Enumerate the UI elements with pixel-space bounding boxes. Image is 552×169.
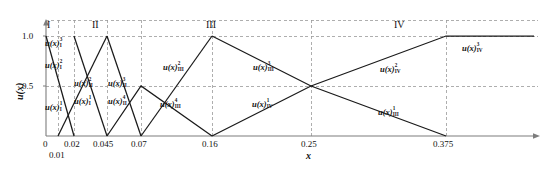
curve-label-fn: u(x) <box>45 60 60 70</box>
y-tick-05: 0.5 <box>22 81 33 91</box>
curve-label-sub: III <box>178 67 184 72</box>
x-axis-arrow <box>533 133 540 139</box>
curve-label-u-III-3: u(x)3III <box>253 57 275 73</box>
curve-u-III-2 <box>141 36 212 136</box>
curve-label-sub: IV <box>267 104 273 109</box>
curve-label-fn: u(x) <box>45 38 60 48</box>
curve-label-sub: I <box>60 107 62 112</box>
x-tick-016: 0.16 <box>202 139 218 149</box>
x-tick-0: 0 <box>43 139 48 149</box>
x-tick-001: 0.01 <box>49 150 65 160</box>
curve-label-sub: II <box>123 101 127 106</box>
curve-label-u-II-2: u(x)2II <box>74 73 96 89</box>
x-tick-002: 0.02 <box>64 139 80 149</box>
curve-label-fn: u(x) <box>252 99 267 109</box>
y-tick-1: 1.0 <box>22 31 33 41</box>
curve-label-fn: u(x) <box>45 102 60 112</box>
curve-label-u-I-3: u(x)3I <box>45 33 67 49</box>
curve-label-sub: IV <box>395 69 401 74</box>
curve-label-fn: u(x) <box>253 62 268 72</box>
curve-label-sub: IV <box>477 48 483 53</box>
curve-label-u-IV-1: u(x)1IV <box>252 94 274 110</box>
curve-label-u-IV-2: u(x)2IV <box>380 59 402 75</box>
x-tick-0375: 0.375 <box>433 139 453 149</box>
region-label-II: II <box>92 19 99 30</box>
curve-label-sub: III <box>175 104 181 109</box>
curve-label-fn: u(x) <box>108 78 123 88</box>
x-tick-007: 0.07 <box>131 139 147 149</box>
curve-label-sub: I <box>60 65 62 70</box>
curve-label-u-III-1: u(x)1III <box>378 102 400 118</box>
curve-label-u-II-3: u(x)3II <box>108 73 130 89</box>
curve-label-fn: u(x) <box>160 99 175 109</box>
curve-label-fn: u(x) <box>74 78 89 88</box>
fuzzy-membership-figure: u(x) x 1.0 0.5 0 0.01 0.02 0.045 0.07 0.… <box>0 0 552 169</box>
curve-label-sub: I <box>60 43 62 48</box>
curve-label-u-I-1: u(x)1I <box>45 97 67 113</box>
curve-label-fn: u(x) <box>74 96 89 106</box>
curve-label-u-I-1b: u(x)1I <box>74 91 96 107</box>
curve-label-sub: II <box>89 83 93 88</box>
curve-label-u-III-2: u(x)2III <box>163 57 185 73</box>
curve-label-sub: III <box>393 112 399 117</box>
curve-label-sub: III <box>268 67 274 72</box>
curve-label-u-II-4: u(x)4II <box>108 91 130 107</box>
curve-label-sub: II <box>123 83 127 88</box>
curve-label-u-III-4: u(x)4III <box>160 94 182 110</box>
curve-label-fn: u(x) <box>462 43 477 53</box>
region-label-III: III <box>206 19 216 30</box>
region-label-IV: IV <box>394 19 405 30</box>
curve-label-fn: u(x) <box>163 62 178 72</box>
curve-label-sub: I <box>89 101 91 106</box>
x-tick-025: 0.25 <box>301 139 317 149</box>
curve-label-u-IV-3: u(x)3IV <box>462 38 484 54</box>
curve-label-fn: u(x) <box>380 64 395 74</box>
x-tick-0045: 0.045 <box>93 139 113 149</box>
curve-label-u-I-2: u(x)2I <box>45 55 67 71</box>
curve-label-fn: u(x) <box>108 96 123 106</box>
x-axis-title: x <box>306 150 311 161</box>
curve-label-fn: u(x) <box>378 107 393 117</box>
region-label-I: I <box>47 19 50 30</box>
